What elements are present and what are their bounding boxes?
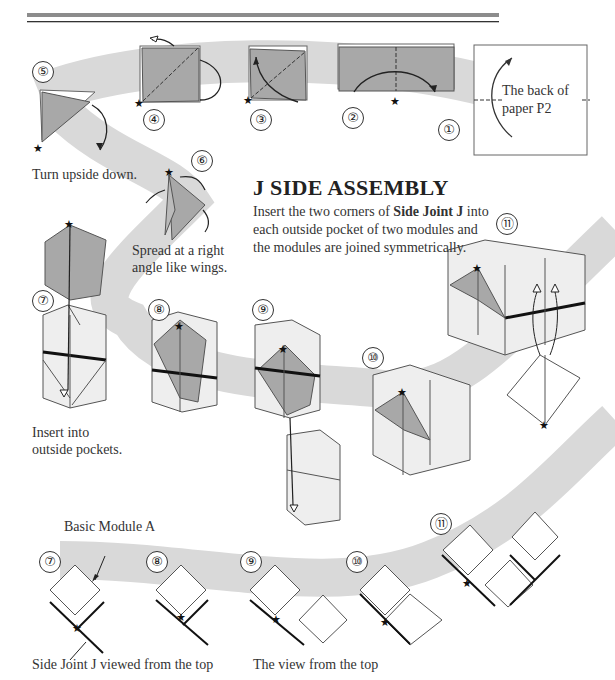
header-rule xyxy=(27,13,499,22)
step-number-3: ③ xyxy=(250,109,272,131)
back-of-paper-line2: paper P2 xyxy=(502,100,569,118)
step7-module: ★ xyxy=(43,218,106,408)
svg-text:★: ★ xyxy=(243,94,253,106)
caption-spread-line1: Spread at a right xyxy=(132,242,227,259)
caption-view-top: The view from the top xyxy=(253,656,378,673)
step3-fold: ★ xyxy=(243,46,307,106)
caption-spread: Spread at a right angle like wings. xyxy=(132,242,227,276)
caption-insert-line1: Insert into xyxy=(32,424,122,441)
svg-text:★: ★ xyxy=(472,262,482,274)
step-number-8: ⑧ xyxy=(148,299,170,321)
topview-step-number-10: ⑩ xyxy=(346,551,368,573)
step8-module: ★ xyxy=(152,312,217,412)
caption-side-joint-top: Side Joint J viewed from the top xyxy=(32,656,213,673)
step-number-1: ① xyxy=(438,119,460,141)
step-number-10: ⑩ xyxy=(362,347,384,369)
section-title: J SIDE ASSEMBLY xyxy=(253,175,449,201)
step-number-5: ⑤ xyxy=(32,61,54,83)
topview-step-number-9: ⑨ xyxy=(240,551,262,573)
svg-text:★: ★ xyxy=(278,343,288,355)
svg-text:★: ★ xyxy=(33,142,43,154)
svg-text:★: ★ xyxy=(72,622,82,634)
topview-step-number-7: ⑦ xyxy=(39,551,61,573)
topview-step-number-11: ⑪ xyxy=(430,513,452,535)
step-number-11: ⑪ xyxy=(496,213,518,235)
back-of-paper-line1: The back of xyxy=(502,82,569,100)
step-number-9: ⑨ xyxy=(252,299,274,321)
caption-spread-line2: angle like wings. xyxy=(132,259,227,276)
intro-text-1: Insert the two corners of xyxy=(253,204,393,219)
back-of-paper-label: The back of paper P2 xyxy=(502,82,569,118)
step-number-2: ② xyxy=(342,107,364,129)
svg-text:★: ★ xyxy=(271,613,281,625)
svg-text:★: ★ xyxy=(176,611,186,623)
intro-bold: Side Joint J xyxy=(393,204,463,219)
svg-text:★: ★ xyxy=(397,386,407,398)
caption-basic-module: Basic Module A xyxy=(64,518,155,535)
step9-module: ★ xyxy=(255,320,340,525)
svg-text:★: ★ xyxy=(390,95,400,107)
step2-fold: ★ xyxy=(338,44,454,107)
step-number-7: ⑦ xyxy=(32,290,54,312)
svg-text:★: ★ xyxy=(134,97,144,109)
step-number-6: ⑥ xyxy=(191,150,213,172)
svg-text:★: ★ xyxy=(380,616,390,628)
svg-text:★: ★ xyxy=(64,218,74,230)
svg-text:★: ★ xyxy=(164,166,174,178)
caption-turn: Turn upside down. xyxy=(32,166,137,183)
step10-modules: ★ xyxy=(373,365,470,475)
section-intro: Insert the two corners of Side Joint J i… xyxy=(253,203,493,257)
svg-text:★: ★ xyxy=(174,320,184,332)
svg-text:★: ★ xyxy=(539,419,549,431)
topview-step-number-8: ⑧ xyxy=(146,551,168,573)
step-number-4: ④ xyxy=(143,109,165,131)
caption-insert-line2: outside pockets. xyxy=(32,441,122,458)
svg-text:★: ★ xyxy=(462,577,472,589)
caption-insert: Insert into outside pockets. xyxy=(32,424,122,458)
